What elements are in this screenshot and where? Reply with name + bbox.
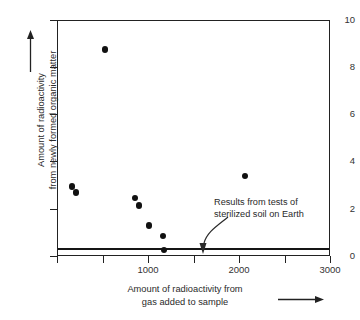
reference-line-sterilized-soil	[58, 248, 329, 250]
x-axis-tick-1500	[194, 256, 195, 263]
y-axis-tick-0	[50, 256, 57, 257]
x-axis-tick-500	[103, 256, 104, 263]
x-axis-title: Amount of radioactivity from gas added t…	[90, 283, 280, 308]
x-axis-tick-2500	[285, 256, 286, 263]
x-axis-tick-2000	[239, 256, 240, 263]
annotation-sterilized-soil: Results from tests of sterilized soil on…	[214, 196, 346, 220]
y-axis-label-0: 0	[321, 251, 355, 261]
x-axis-tick-0	[57, 256, 58, 263]
y-axis-label-10: 10	[321, 15, 355, 25]
data-point	[136, 202, 142, 208]
y-axis-direction-arrow-icon	[26, 30, 35, 72]
y-axis-title: Amount of radioactivity from newly forme…	[35, 10, 59, 230]
x-axis-label-3000: 3000	[300, 265, 360, 275]
x-axis-tick-1000	[148, 256, 149, 263]
y-axis-label-6: 6	[321, 109, 355, 119]
annotation-pointer-arrow-icon	[195, 216, 231, 254]
x-axis-tick-3000	[330, 256, 331, 263]
x-axis-direction-arrow-icon	[278, 295, 324, 304]
y-axis-label-4: 4	[321, 156, 355, 166]
data-point	[73, 189, 79, 195]
data-point	[146, 222, 152, 228]
plot-area-frame	[57, 20, 330, 256]
data-point	[242, 173, 248, 179]
x-axis-label-1000: 1000	[118, 265, 178, 275]
data-point	[102, 46, 108, 52]
x-axis-label-2000: 2000	[209, 265, 269, 275]
y-axis-label-8: 8	[321, 62, 355, 72]
